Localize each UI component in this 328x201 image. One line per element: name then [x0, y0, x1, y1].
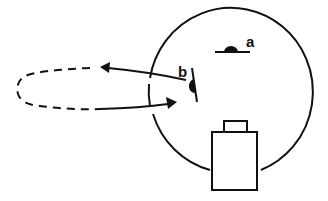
diagram: a b — [0, 0, 328, 201]
label-b: b — [178, 63, 187, 80]
outgoing-arrow — [100, 62, 186, 80]
symbol-a — [215, 46, 250, 52]
box-device — [212, 121, 257, 190]
dashed-loop — [17, 68, 100, 109]
return-arrow — [100, 97, 177, 109]
label-a: a — [246, 33, 255, 50]
symbol-b — [189, 68, 197, 102]
